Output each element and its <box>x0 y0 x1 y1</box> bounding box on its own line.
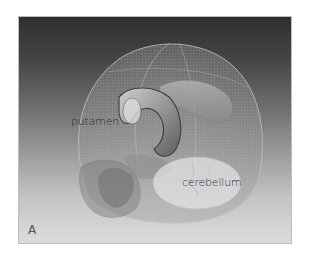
brain-3d-illustration <box>19 17 292 244</box>
cerebellum-label: cerebellum <box>182 176 241 189</box>
brain-3d-rendering-figure: putamen cerebellum A <box>18 16 292 244</box>
panel-label: A <box>28 223 36 237</box>
putamen-label: putamen <box>71 115 119 128</box>
